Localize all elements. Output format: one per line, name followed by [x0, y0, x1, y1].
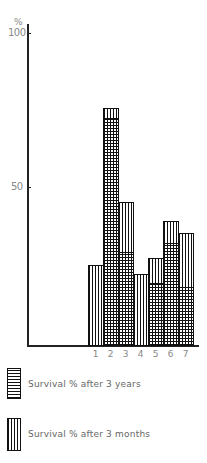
- x-tick-2: 2: [103, 349, 118, 359]
- x-tick-1: 1: [88, 349, 103, 359]
- y-tick-mark-100: [28, 33, 31, 34]
- legend-label-years: Survival % after 3 years: [28, 379, 141, 389]
- y-axis-line: [27, 24, 29, 346]
- bar-1-3-months: [88, 265, 104, 346]
- bar-4-3-months: [133, 274, 149, 346]
- y-tick-mark-50: [28, 187, 31, 188]
- legend-swatch-months: [7, 418, 21, 451]
- bar-3-3-years: [118, 252, 134, 346]
- y-tick-50: 50: [11, 181, 23, 192]
- bar-7-3-years: [178, 287, 194, 346]
- x-tick-6: 6: [163, 349, 178, 359]
- y-axis-unit: %: [14, 17, 23, 27]
- chart: % 100 50 1234567 Survival % after 3 year…: [0, 0, 207, 463]
- bar-6-3-years: [163, 243, 179, 346]
- x-tick-4: 4: [133, 349, 148, 359]
- bar-5-3-years: [148, 283, 164, 346]
- legend-swatch-years: [7, 368, 21, 399]
- bar-2-3-years: [103, 118, 119, 346]
- x-tick-5: 5: [148, 349, 163, 359]
- legend-label-months: Survival % after 3 months: [28, 429, 150, 439]
- y-tick-100: 100: [8, 27, 26, 38]
- x-tick-7: 7: [178, 349, 193, 359]
- x-tick-3: 3: [118, 349, 133, 359]
- legend: Survival % after 3 years Survival % afte…: [0, 365, 207, 463]
